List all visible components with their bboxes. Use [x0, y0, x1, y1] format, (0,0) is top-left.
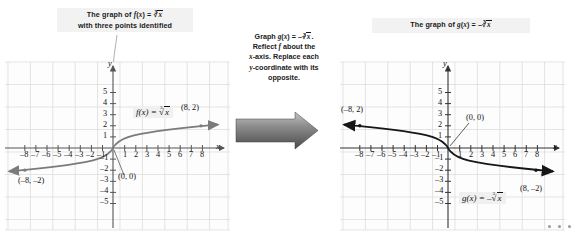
- right-xtick--6: –6: [377, 150, 385, 159]
- left-xtick-3: 3: [145, 150, 149, 159]
- left-point-origin-label: (0, 0): [118, 172, 136, 181]
- left-caption-line2: with three points identified: [61, 21, 189, 31]
- right-y-axis-name: y: [443, 58, 447, 68]
- left-xtick-7: 7: [189, 150, 193, 159]
- right-point-8-neg2-label: (8, –2): [520, 184, 542, 193]
- left-xtick--7: –7: [31, 150, 39, 159]
- transform-arrow: [236, 112, 318, 149]
- right-xtick-7: 7: [524, 150, 528, 159]
- left-ytick--1: –1: [100, 153, 108, 162]
- left-ytick--2: –2: [100, 164, 108, 173]
- radicand: x: [157, 10, 163, 19]
- right-xtick-4: 4: [491, 150, 495, 159]
- right-xtick-6: 6: [513, 150, 517, 159]
- middle-line-3: x-axis. Replace each: [232, 52, 336, 62]
- left-xtick--4: –4: [64, 150, 72, 159]
- left-ytick--3: –3: [100, 175, 108, 184]
- right-xtick--3: –3: [410, 150, 418, 159]
- left-ytick-5: 5: [103, 87, 107, 96]
- right-xtick-3: 3: [480, 150, 484, 159]
- middle-instruction: Graph g(x) = –3√x. Reflect f about the x…: [232, 32, 336, 83]
- right-xtick--2: –2: [421, 150, 429, 159]
- right-ytick--1: –1: [435, 153, 443, 162]
- left-ytick--5: –5: [100, 197, 108, 206]
- left-xtick--6: –6: [42, 150, 50, 159]
- middle-line-5: opposite.: [232, 73, 336, 83]
- dot-3: [568, 225, 571, 228]
- right-ytick-4: 4: [438, 98, 442, 107]
- middle-line-1: Graph g(x) = –3√x.: [232, 32, 336, 42]
- right-ytick-5: 5: [438, 87, 442, 96]
- dot-1: [548, 225, 551, 228]
- middle-line1-rest: (x) = –3√x.: [281, 32, 313, 41]
- right-xtick-1: 1: [458, 150, 462, 159]
- right-caption-line1: The graph of g(x) = –3√x: [376, 20, 526, 31]
- left-y-axis-name: y: [108, 58, 112, 68]
- middle-line-4: y-coordinate with its: [232, 63, 336, 73]
- right-ytick-1: 1: [438, 131, 442, 140]
- left-xtick--2: –2: [86, 150, 94, 159]
- left-grid: [5, 35, 230, 230]
- left-xtick--5: –5: [53, 150, 61, 159]
- right-ytick-2: 2: [438, 120, 442, 129]
- right-xtick-2: 2: [469, 150, 473, 159]
- left-xtick-4: 4: [156, 150, 160, 159]
- left-ytick--4: –4: [100, 186, 108, 195]
- left-xtick--3: –3: [75, 150, 83, 159]
- right-xtick--4: –4: [399, 150, 407, 159]
- radical-symbol: 3√x: [153, 10, 163, 21]
- right-x-axis-name: x: [553, 141, 557, 151]
- right-point-neg8-2-label: (–8, 2): [341, 105, 363, 114]
- right-xtick--8: –8: [355, 150, 363, 159]
- right-ytick--4: –4: [435, 186, 443, 195]
- right-ytick-3: 3: [438, 109, 442, 118]
- right-ytick--2: –2: [435, 164, 443, 173]
- left-function-label: f(x) = 3√x: [133, 106, 173, 118]
- right-grid: [340, 62, 565, 230]
- right-ytick--3: –3: [435, 175, 443, 184]
- left-point-8-2-label: (8, 2): [181, 103, 199, 112]
- left-ytick-3: 3: [103, 109, 107, 118]
- left-ytick-1: 1: [103, 131, 107, 140]
- left-xtick-8: 8: [200, 150, 204, 159]
- left-ytick-4: 4: [103, 98, 107, 107]
- right-panel-caption: The graph of g(x) = –3√x: [372, 18, 530, 33]
- right-point-origin-label: (0, 0): [466, 113, 484, 122]
- right-ytick--5: –5: [435, 197, 443, 206]
- caption-eq: =: [145, 10, 154, 19]
- dot-2: [558, 225, 561, 228]
- right-xtick-8: 8: [535, 150, 539, 159]
- left-panel-caption: The graph of f(x) = 3√x with three point…: [57, 8, 193, 32]
- left-point-neg8-neg2-label: (–8, –2): [18, 176, 44, 185]
- radical-index: 3: [154, 8, 157, 18]
- right-function-label: g(x) = –3√x: [459, 192, 506, 204]
- left-xtick-6: 6: [178, 150, 182, 159]
- left-xtick--8: –8: [20, 150, 28, 159]
- right-xtick--7: –7: [366, 150, 374, 159]
- decorative-dots: [545, 214, 571, 232]
- figure-root: The graph of f(x) = 3√x with three point…: [0, 0, 576, 237]
- left-caption-line1: The graph of f(x) = 3√x: [61, 10, 189, 21]
- left-ytick-2: 2: [103, 120, 107, 129]
- left-xtick-2: 2: [134, 150, 138, 159]
- right-xtick--5: –5: [388, 150, 396, 159]
- left-xtick-1: 1: [123, 150, 127, 159]
- caption-prefix: The graph of: [87, 10, 134, 19]
- middle-graph-word: Graph: [255, 32, 278, 41]
- left-xtick-5: 5: [167, 150, 171, 159]
- left-x-axis-name: x: [216, 141, 220, 151]
- middle-line-2: Reflect f about the: [232, 42, 336, 52]
- right-xtick-5: 5: [502, 150, 506, 159]
